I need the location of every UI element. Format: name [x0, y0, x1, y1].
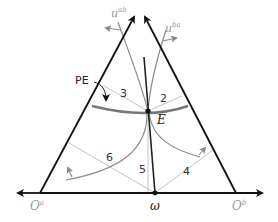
- indifference-curves: [66, 22, 200, 180]
- region-6-label: 6: [106, 152, 113, 163]
- arrow-ua: [163, 38, 176, 41]
- label-pe: PE: [75, 75, 89, 86]
- region-3-label: 3: [120, 88, 127, 99]
- label-ub: uab: [111, 7, 127, 19]
- arrow-lower-left: [68, 168, 72, 177]
- contract-curve: [92, 106, 188, 113]
- label-oa: Oa: [30, 200, 44, 212]
- region-5-label: 5: [139, 164, 146, 175]
- axis-left: [40, 17, 134, 193]
- label-omega: ω: [150, 200, 160, 212]
- arrow-lower-right: [199, 148, 205, 155]
- equilibrium-point: [145, 108, 150, 113]
- arrow-ub: [106, 28, 121, 30]
- pe-pointer-arrow: [94, 82, 106, 100]
- diagram-canvas: [0, 0, 278, 222]
- label-ua: uba: [165, 22, 181, 34]
- region-2-label: 2: [160, 93, 167, 104]
- region-4-label: 4: [183, 166, 190, 177]
- label-e: E: [157, 114, 166, 126]
- label-ob: Ob: [232, 200, 246, 212]
- endowment-point: [153, 191, 158, 196]
- edgeworth-diagram: uab uba PE E 3 2 6 5 4 Oa ω Ob: [0, 0, 278, 222]
